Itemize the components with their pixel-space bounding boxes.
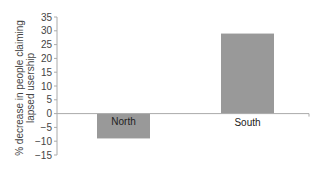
y-axis-title-line-2: lapsed usership bbox=[25, 53, 36, 123]
bar-chart: % decrease in people claiming lapsed use… bbox=[0, 0, 324, 171]
y-axis-title: % decrease in people claiming lapsed use… bbox=[14, 20, 36, 156]
y-axis: 35302520151050−5−10−15 bbox=[35, 12, 57, 161]
y-tick-label: −10 bbox=[35, 136, 52, 147]
y-tick-label: 20 bbox=[41, 53, 53, 64]
y-tick-label: 5 bbox=[46, 94, 52, 105]
category-label-north: North bbox=[111, 116, 135, 127]
y-tick-label: 35 bbox=[41, 12, 53, 23]
y-tick-label: 10 bbox=[41, 81, 53, 92]
y-tick-label: 30 bbox=[41, 25, 53, 36]
zero-baseline bbox=[57, 114, 309, 117]
y-axis-title-line-1: % decrease in people claiming bbox=[14, 20, 25, 156]
category-labels: NorthSouth bbox=[111, 116, 260, 128]
y-tick-label: −15 bbox=[35, 150, 52, 161]
category-label-south: South bbox=[234, 117, 260, 128]
y-tick-label: −5 bbox=[41, 122, 53, 133]
y-tick-label: 25 bbox=[41, 39, 53, 50]
y-tick-label: 15 bbox=[41, 67, 53, 78]
bar-south bbox=[221, 34, 274, 114]
y-tick-label: 0 bbox=[46, 108, 52, 119]
